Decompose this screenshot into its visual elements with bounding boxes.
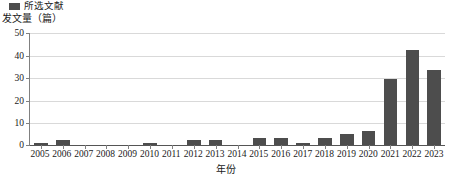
- bar-slot-2005: [30, 33, 52, 145]
- bar-2018[interactable]: [318, 138, 332, 145]
- bar-slot-2019: [336, 33, 358, 145]
- x-axis-tick-label-2023: 2023: [423, 148, 445, 161]
- y-axis-title: 发文量（篇）: [2, 13, 62, 25]
- y-axis-tick-0: [26, 145, 30, 146]
- x-axis-tick-label-2010: 2010: [138, 148, 160, 161]
- legend-label: 所选文献: [24, 1, 64, 12]
- x-axis-tick-labels: 2005200620072008200920102011201220132014…: [29, 148, 445, 161]
- bar-slot-2011: [161, 33, 183, 145]
- x-axis-tick-label-2019: 2019: [335, 148, 357, 161]
- y-axis-tick-label-50: 50: [15, 28, 25, 38]
- bar-series: [30, 33, 445, 145]
- chart-legend: 所选文献: [9, 1, 64, 12]
- bar-slot-2008: [96, 33, 118, 145]
- bar-slot-2012: [183, 33, 205, 145]
- bar-slot-2006: [52, 33, 74, 145]
- x-axis-tick-label-2021: 2021: [379, 148, 401, 161]
- bar-2020[interactable]: [362, 131, 376, 145]
- x-axis-tick-label-2005: 2005: [29, 148, 51, 161]
- x-axis-tick-label-2009: 2009: [117, 148, 139, 161]
- legend-swatch-icon: [9, 3, 20, 10]
- x-axis-tick-label-2011: 2011: [160, 148, 182, 161]
- bar-2015[interactable]: [253, 138, 267, 145]
- bar-2023[interactable]: [427, 70, 441, 145]
- bar-slot-2018: [314, 33, 336, 145]
- x-axis-tick-label-2016: 2016: [270, 148, 292, 161]
- bar-2019[interactable]: [340, 134, 354, 145]
- bar-slot-2014: [227, 33, 249, 145]
- bar-slot-2017: [292, 33, 314, 145]
- bar-slot-2007: [74, 33, 96, 145]
- plot-area: 50403020100: [29, 33, 445, 146]
- bar-2021[interactable]: [384, 79, 398, 145]
- bar-slot-2013: [205, 33, 227, 145]
- x-axis-tick-label-2015: 2015: [248, 148, 270, 161]
- x-axis-tick-label-2018: 2018: [314, 148, 336, 161]
- x-axis-tick-label-2007: 2007: [73, 148, 95, 161]
- bar-slot-2021: [380, 33, 402, 145]
- bar-slot-2023: [423, 33, 445, 145]
- y-axis-tick-label-0: 0: [19, 140, 24, 150]
- bar-slot-2009: [117, 33, 139, 145]
- y-axis-tick-label-10: 10: [15, 118, 25, 128]
- x-axis-tick-label-2020: 2020: [357, 148, 379, 161]
- x-axis-tick-label-2022: 2022: [401, 148, 423, 161]
- bar-slot-2010: [139, 33, 161, 145]
- y-axis-tick-label-30: 30: [15, 73, 25, 83]
- bar-slot-2015: [248, 33, 270, 145]
- bar-2016[interactable]: [274, 138, 288, 145]
- bar-slot-2022: [401, 33, 423, 145]
- x-axis-tick-label-2012: 2012: [182, 148, 204, 161]
- x-axis-tick-label-2014: 2014: [226, 148, 248, 161]
- y-axis-tick-label-20: 20: [15, 96, 25, 106]
- bar-slot-2016: [270, 33, 292, 145]
- publication-count-bar-chart: 所选文献 发文量（篇） 50403020100 2005200620072008…: [0, 0, 452, 183]
- x-axis-title: 年份: [0, 164, 452, 176]
- bar-slot-2020: [358, 33, 380, 145]
- x-axis-tick-label-2006: 2006: [51, 148, 73, 161]
- x-axis-tick-label-2017: 2017: [292, 148, 314, 161]
- x-axis-tick-label-2013: 2013: [204, 148, 226, 161]
- x-axis-tick-label-2008: 2008: [95, 148, 117, 161]
- y-axis-tick-label-40: 40: [15, 51, 25, 61]
- bar-2022[interactable]: [406, 50, 420, 145]
